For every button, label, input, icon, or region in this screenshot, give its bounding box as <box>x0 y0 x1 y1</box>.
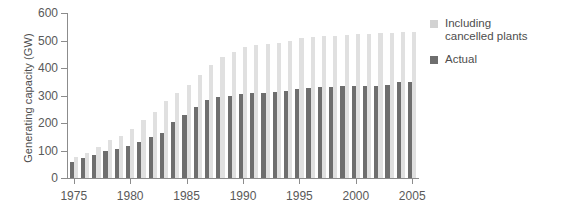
bar-including-cancelled <box>74 157 78 178</box>
bar-including-cancelled <box>243 47 247 178</box>
bar-group <box>81 13 89 178</box>
bar-including-cancelled <box>153 112 157 178</box>
bar-group <box>149 13 157 178</box>
bar-including-cancelled <box>209 65 213 178</box>
x-tick-label: 2005 <box>399 189 426 203</box>
bar-group <box>329 13 337 178</box>
legend-label-line1: Including <box>445 17 491 29</box>
bar-including-cancelled <box>254 45 258 178</box>
legend-label: Actual <box>445 53 477 66</box>
bar-group <box>171 13 179 178</box>
y-tick-label: 0 <box>51 171 58 185</box>
bar-including-cancelled <box>367 34 371 178</box>
bar-including-cancelled <box>299 38 303 178</box>
bar-group <box>397 13 405 178</box>
legend-label-line1: Actual <box>445 53 477 65</box>
bar-including-cancelled <box>96 147 100 178</box>
x-tick-label: 1995 <box>286 189 313 203</box>
bar-including-cancelled <box>119 136 123 178</box>
bar-including-cancelled <box>356 34 360 178</box>
chart-legend: Including cancelled plants Actual <box>430 17 578 76</box>
bar-group <box>352 13 360 178</box>
x-tick-label: 1985 <box>173 189 200 203</box>
x-tick-mark <box>243 178 244 184</box>
bar-group <box>318 13 326 178</box>
bar-series-container <box>67 13 419 178</box>
y-tick-label: 400 <box>38 61 58 75</box>
bar-including-cancelled <box>277 43 281 178</box>
bar-including-cancelled <box>311 37 315 178</box>
y-axis-title: Generating capacity (GW) <box>22 8 34 188</box>
y-tick-label: 300 <box>38 89 58 103</box>
bar-including-cancelled <box>333 36 337 178</box>
bar-group <box>408 13 416 178</box>
x-tick-mark <box>299 178 300 184</box>
bar-including-cancelled <box>164 101 168 178</box>
bar-group <box>239 13 247 178</box>
legend-label: Including cancelled plants <box>445 17 527 43</box>
bar-including-cancelled <box>390 33 394 178</box>
bar-group <box>115 13 123 178</box>
y-tick-label: 200 <box>38 116 58 130</box>
bar-group <box>385 13 393 178</box>
plot-area: 0100200300400500600 19751980198519901995… <box>67 13 419 178</box>
bar-group <box>261 13 269 178</box>
bar-group <box>160 13 168 178</box>
bar-group <box>137 13 145 178</box>
bar-group <box>363 13 371 178</box>
bar-group <box>228 13 236 178</box>
bar-including-cancelled <box>187 85 191 179</box>
y-tick-label: 500 <box>38 34 58 48</box>
legend-item-including-cancelled-plants: Including cancelled plants <box>430 17 578 43</box>
bar-including-cancelled <box>288 41 292 179</box>
bar-including-cancelled <box>378 33 382 178</box>
y-tick-mark <box>61 178 67 179</box>
x-tick-mark <box>130 178 131 184</box>
bar-group <box>194 13 202 178</box>
bar-including-cancelled <box>141 120 145 178</box>
bar-group <box>284 13 292 178</box>
legend-swatch-icon <box>430 56 438 64</box>
bar-including-cancelled <box>232 52 236 179</box>
bar-group <box>103 13 111 178</box>
x-tick-mark <box>187 178 188 184</box>
bar-including-cancelled <box>401 32 405 178</box>
bar-group <box>216 13 224 178</box>
bar-including-cancelled <box>198 75 202 178</box>
bar-group <box>126 13 134 178</box>
bar-including-cancelled <box>130 129 134 178</box>
x-tick-label: 1980 <box>117 189 144 203</box>
bar-including-cancelled <box>266 44 270 178</box>
x-tick-mark <box>356 178 357 184</box>
bar-group <box>295 13 303 178</box>
bar-including-cancelled <box>345 35 349 178</box>
x-tick-mark <box>74 178 75 184</box>
bar-group <box>250 13 258 178</box>
bar-including-cancelled <box>175 93 179 178</box>
bar-group <box>70 13 78 178</box>
bar-including-cancelled <box>322 36 326 178</box>
bar-group <box>273 13 281 178</box>
bar-including-cancelled <box>412 32 416 178</box>
bar-including-cancelled <box>220 57 224 178</box>
legend-item-actual: Actual <box>430 53 578 66</box>
legend-label-line2: cancelled plants <box>445 30 527 42</box>
legend-swatch-icon <box>430 20 438 28</box>
bar-including-cancelled <box>85 153 89 178</box>
bar-group <box>340 13 348 178</box>
y-tick-label: 600 <box>38 6 58 20</box>
bar-group <box>205 13 213 178</box>
x-tick-label: 2000 <box>342 189 369 203</box>
y-tick-label: 100 <box>38 144 58 158</box>
x-tick-label: 1975 <box>60 189 87 203</box>
x-tick-label: 1990 <box>230 189 257 203</box>
bar-group <box>374 13 382 178</box>
bar-group <box>92 13 100 178</box>
bar-group <box>182 13 190 178</box>
x-tick-mark <box>412 178 413 184</box>
bar-group <box>306 13 314 178</box>
chart-figure: Generating capacity (GW) 010020030040050… <box>0 0 582 221</box>
bar-including-cancelled <box>108 140 112 179</box>
